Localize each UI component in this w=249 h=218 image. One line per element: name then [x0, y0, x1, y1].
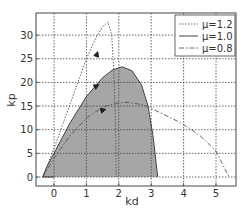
y-tick-label: 30 — [20, 30, 33, 41]
x-tick-label: 5 — [213, 188, 219, 199]
x-axis-label: kd — [125, 195, 138, 208]
x-tick-label: 3 — [148, 188, 154, 199]
y-tick-label: 25 — [20, 53, 33, 64]
y-tick-label: 0 — [27, 172, 33, 183]
legend: μ=1.2 μ=1.0 μ=0.8 — [175, 15, 235, 56]
x-tick-label: 2 — [116, 188, 122, 199]
x-tick-label: 0 — [51, 188, 57, 199]
legend-label-mu-1-0: μ=1.0 — [202, 31, 233, 42]
y-tick-label: 15 — [20, 101, 33, 112]
y-tick-label: 20 — [20, 77, 33, 88]
legend-label-mu-1-2: μ=1.2 — [202, 19, 233, 30]
x-tick-label: 4 — [180, 188, 186, 199]
legend-label-mu-0-8: μ=0.8 — [202, 43, 233, 54]
y-tick-label: 5 — [27, 148, 33, 159]
chart: 012345 051015202530 kd kp μ=1.2 μ=1.0 μ=… — [0, 0, 249, 218]
x-tick-label: 1 — [83, 188, 89, 199]
y-axis-label: kp — [5, 93, 18, 106]
y-tick-label: 10 — [20, 124, 33, 135]
